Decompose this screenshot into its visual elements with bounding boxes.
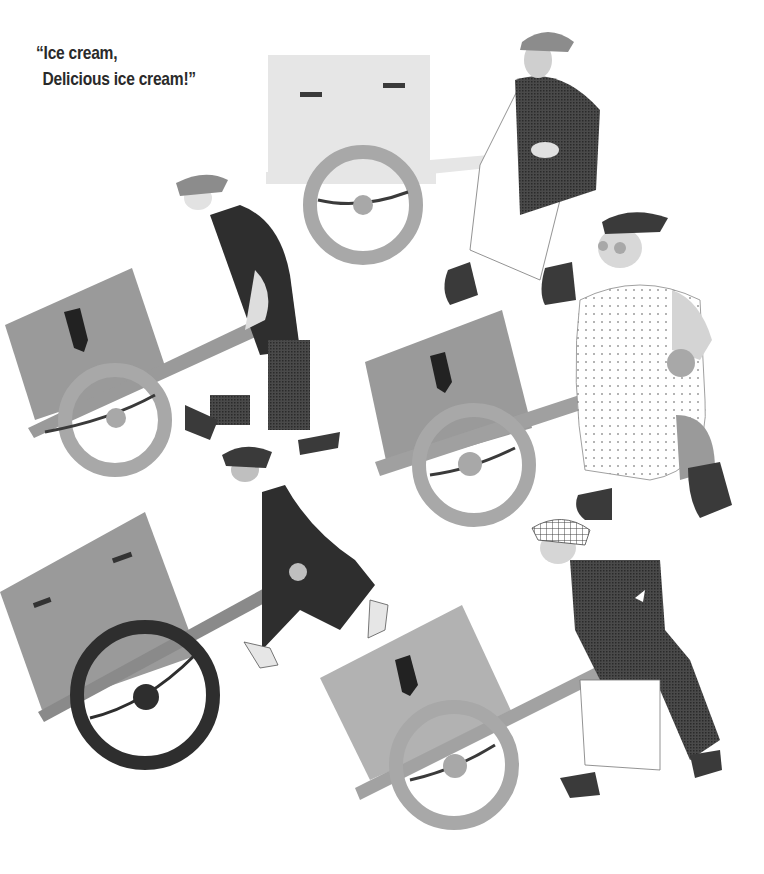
vendor-top-center [266,32,600,305]
vendor-lower-left [0,447,388,763]
vendor-cap [532,519,590,545]
vendor-coat [262,485,375,650]
vendor-coat [515,76,600,215]
vendor-cap [602,212,668,234]
vendor-middle-right [365,212,732,520]
vendor-cap [520,32,574,52]
ice-cream-vendors-illustration [0,0,764,874]
vendor-upper-left [5,175,340,470]
vendor-cap [222,447,272,468]
vendor-cap [176,175,228,196]
vendor-bottom-right [320,519,722,823]
cart-box [320,605,513,780]
